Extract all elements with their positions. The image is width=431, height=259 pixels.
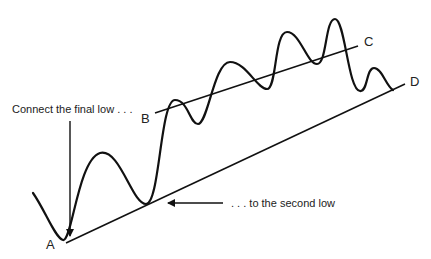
trendline-b-c bbox=[155, 46, 358, 113]
annotation-second-low: . . . to the second low bbox=[231, 197, 335, 209]
point-label-d: D bbox=[410, 74, 419, 89]
point-label-b: B bbox=[141, 111, 150, 126]
annotation-connect-final-low: Connect the final low . . . bbox=[12, 103, 132, 115]
point-label-a: A bbox=[46, 237, 55, 252]
point-label-c: C bbox=[364, 34, 373, 49]
